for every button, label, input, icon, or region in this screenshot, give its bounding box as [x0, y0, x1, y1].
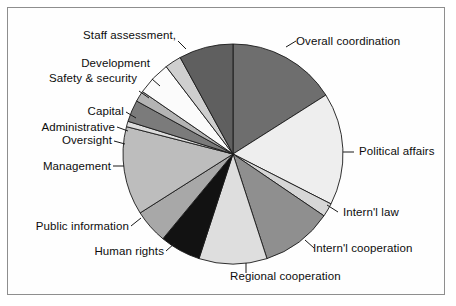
pie-label-intl-law: Intern'l law [343, 206, 399, 219]
pie-label-public-information: Public information [0, 220, 129, 233]
pie-label-staff-assessment: Staff assessment, [0, 29, 176, 42]
pie-label-political-affairs: Political affairs [359, 145, 435, 158]
leader-public-information [131, 218, 141, 226]
pie-label-regional-cooperation: Regional cooperation [230, 270, 341, 283]
pie-label-capital: Capital [0, 105, 124, 118]
pie-chart-figure: Overall coordination Political affairs I… [0, 0, 456, 306]
pie-label-human-rights: Human rights [0, 245, 164, 258]
pie-label-oversight: Oversight [0, 134, 112, 147]
chart-plot-area: Overall coordination Political affairs I… [0, 0, 456, 306]
pie-label-intl-cooperation: Intern'l cooperation [313, 242, 412, 255]
pie-label-overall-coordination: Overall coordination [296, 35, 400, 48]
leader-overall-coordination [286, 41, 296, 47]
pie-label-administrative: Administrative [0, 121, 115, 134]
pie-label-development: Development [0, 57, 150, 70]
pie-label-management: Management [0, 160, 111, 173]
pie-slice-group [123, 44, 343, 264]
pie-label-safety-security: Safety & security [0, 72, 137, 85]
leader-staff-assessment [178, 41, 186, 49]
